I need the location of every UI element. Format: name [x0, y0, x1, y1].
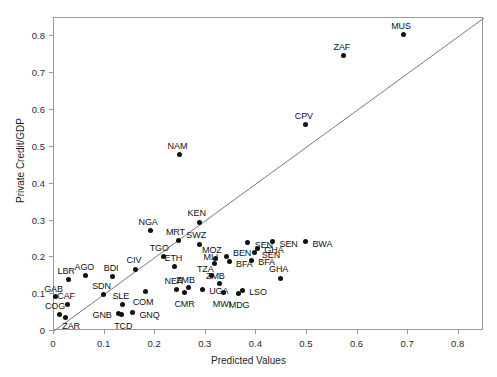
data-point-label: CAF — [57, 291, 75, 301]
x-tick-label: 0.2 — [139, 338, 169, 349]
y-tick-label: 0 — [15, 325, 45, 336]
x-tick-label: 0.3 — [190, 338, 220, 349]
data-point-label: ZMB — [176, 275, 195, 285]
data-point — [197, 242, 202, 247]
data-point — [303, 239, 308, 244]
x-tick-label: 0.7 — [392, 338, 422, 349]
data-point — [249, 258, 254, 263]
data-point-label: LSO — [249, 287, 267, 297]
data-point — [148, 228, 153, 233]
data-point — [227, 259, 232, 264]
data-point — [182, 290, 187, 295]
data-point — [143, 289, 148, 294]
x-tick-label: 0.5 — [291, 338, 321, 349]
y-tick-label: 0.8 — [15, 30, 45, 41]
data-point — [65, 302, 70, 307]
data-point-label: NGA — [139, 217, 158, 227]
data-point-label: AGO — [75, 262, 95, 272]
data-point-label: BDI — [104, 263, 119, 273]
x-tick-label: 0.1 — [89, 338, 119, 349]
plot-area: GABCOGZARCAFLBRAGOSDNBDIGNBTCDSLEGNQCIVC… — [53, 17, 483, 330]
data-point — [57, 312, 62, 317]
x-tick-label: 0.6 — [342, 338, 372, 349]
reference-line-layer — [54, 18, 484, 331]
data-point — [130, 310, 135, 315]
data-point-label: SDN — [92, 281, 111, 291]
data-point-label: CIV — [127, 255, 142, 265]
data-point-label: TGO — [150, 243, 169, 253]
y-tick-label: 0.1 — [15, 288, 45, 299]
data-point — [401, 32, 406, 37]
data-point-label: MOZ — [202, 245, 222, 255]
data-point-label: SWZ — [186, 230, 206, 240]
data-point-label: CPV — [295, 111, 313, 121]
data-point-label: NAM — [168, 141, 188, 151]
y-tick-label: 0.6 — [15, 104, 45, 115]
data-point-label: ZMB — [206, 271, 225, 281]
data-point — [200, 287, 205, 292]
data-point — [119, 312, 124, 317]
data-point-label: COG — [45, 301, 65, 311]
data-point — [255, 246, 260, 251]
data-point-label: TCD — [114, 321, 132, 331]
data-point-label: BWA — [312, 239, 332, 249]
data-point-label: BEN — [233, 248, 251, 258]
data-point — [240, 288, 245, 293]
data-point-label: ZAR — [62, 321, 80, 331]
y-tick-label: 0.3 — [15, 214, 45, 225]
y-tick-label: 0.5 — [15, 140, 45, 151]
x-tick-label: 0 — [38, 338, 68, 349]
data-point-label: GHA — [269, 264, 288, 274]
y-tick-label: 0.4 — [15, 177, 45, 188]
data-point-label: MDG — [229, 300, 250, 310]
y-tick-label: 0.2 — [15, 251, 45, 262]
data-point-label: MUS — [391, 21, 411, 31]
data-point-label: LBR — [58, 266, 75, 276]
data-point — [63, 315, 68, 320]
data-point — [110, 274, 115, 279]
data-point-label: ZAF — [334, 42, 351, 52]
identity-reference-line — [54, 18, 484, 331]
data-point-label: SEN — [280, 239, 298, 249]
y-tick-label: 0.7 — [15, 67, 45, 78]
data-point-label: KEN — [188, 208, 206, 218]
data-point — [224, 254, 229, 259]
x-tick-label: 0.8 — [443, 338, 473, 349]
data-point-label: SLE — [112, 291, 129, 301]
scatter-plot-figure: Private Credit/GDP Predicted Values 00.1… — [0, 0, 497, 377]
data-point-label: GNB — [93, 310, 112, 320]
data-point — [66, 277, 71, 282]
data-point-label: CMR — [174, 299, 194, 309]
data-point-label: ETH — [165, 253, 183, 263]
x-axis-title: Predicted Values — [0, 355, 497, 366]
data-point-label: GNQ — [139, 310, 159, 320]
data-point — [101, 292, 106, 297]
x-tick-label: 0.4 — [240, 338, 270, 349]
data-point — [278, 276, 283, 281]
data-point-label: MRT — [166, 227, 185, 237]
data-point — [176, 238, 181, 243]
data-point-label: COM — [133, 297, 154, 307]
